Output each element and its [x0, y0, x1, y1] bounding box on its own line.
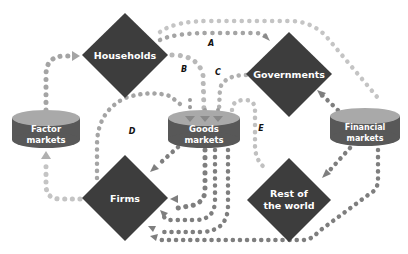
arrow-into-firms-bottom [150, 234, 158, 241]
factor-markets-label-1: Factor [31, 124, 62, 134]
flow-firms-to-goods-D [97, 93, 180, 178]
flow-label-e: E [258, 124, 264, 133]
financial-markets-label-2: markets [347, 134, 384, 143]
rest-of-world-label-2: the world [263, 200, 314, 211]
flow-label-b: B [181, 65, 187, 74]
arrow-into-governments [262, 33, 270, 41]
governments-node: Governments [246, 32, 332, 117]
flow-label-c: C [215, 68, 221, 77]
financial-markets-label-1: Financial [345, 123, 386, 132]
arrow-into-firms-2 [160, 210, 168, 218]
flow-goods-to-firms-1 [178, 150, 205, 208]
factor-markets-label-2: markets [26, 135, 65, 145]
arrow-into-firms-3 [148, 226, 156, 232]
flow-label-d: D [129, 127, 136, 136]
arrow-into-households [72, 51, 80, 61]
households-node: Households [82, 13, 168, 98]
goods-markets-label-1: Goods [189, 124, 219, 134]
rest-of-world-label-1: Rest of [270, 188, 309, 199]
flow-goods-to-firms-2 [163, 150, 215, 220]
arrow-into-firms-1 [170, 195, 178, 203]
rest-of-world-node: Rest of the world [247, 158, 331, 242]
arrow-into-factor-markets [41, 151, 51, 159]
flow-households-to-goods-B [172, 55, 204, 110]
flow-goods-to-firms-diagonal [158, 147, 178, 165]
arrow-into-governments-from-financial [317, 90, 326, 98]
goods-markets-label-2: markets [184, 135, 223, 145]
flow-label-a: A [207, 39, 214, 48]
factor-markets-cylinder: Factor markets [12, 110, 80, 148]
households-label: Households [94, 50, 157, 61]
firms-label: Firms [110, 193, 140, 204]
flow-financial-to-rest-of-world [330, 148, 350, 170]
flow-firms-to-factor [46, 160, 80, 199]
financial-markets-cylinder: Financial markets [330, 108, 400, 146]
goods-markets-cylinder: Goods markets [168, 110, 240, 148]
governments-label: Governments [253, 69, 325, 80]
arrow-into-firms-diagonal [150, 164, 159, 172]
flow-factor-to-households [46, 56, 73, 110]
circular-flow-diagram: Factor markets Goods markets Financial m… [0, 0, 408, 254]
